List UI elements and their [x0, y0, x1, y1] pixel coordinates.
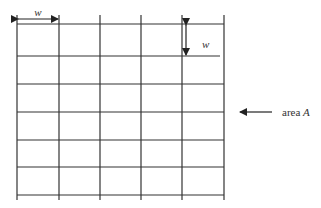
width-label: w — [34, 6, 42, 18]
width-dimension: w — [18, 6, 58, 19]
grid-diagram: w w area A — [0, 0, 321, 208]
area-label: area A — [282, 106, 310, 118]
height-dimension: w — [186, 25, 210, 55]
height-label: w — [202, 38, 210, 50]
area-pointer: area A — [240, 106, 310, 118]
square-grid — [17, 15, 224, 200]
